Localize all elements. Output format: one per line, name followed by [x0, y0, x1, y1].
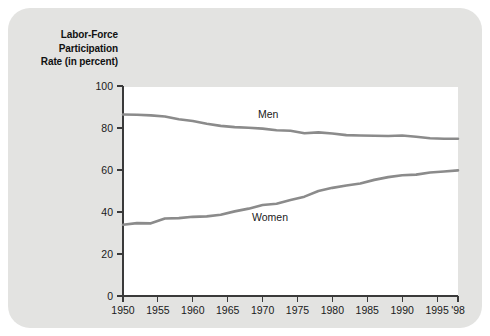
y-tick-group: 020406080100 [95, 80, 123, 302]
y-tick-label-60: 60 [101, 164, 113, 176]
x-tick-label-1980: 1980 [321, 304, 345, 316]
y-tick-label-20: 20 [101, 248, 113, 260]
series-annotation-men: Men [258, 108, 279, 120]
x-tick-group: 1950195519601965197019751980198519901995… [111, 296, 465, 316]
x-tick-label-1995: 1995 [425, 304, 449, 316]
x-tick-label-1990: 1990 [390, 304, 414, 316]
chart-screenshot: Labor-Force Participation Rate (in perce… [0, 0, 490, 336]
x-tick-label-1975: 1975 [286, 304, 310, 316]
y-tick-label-80: 80 [101, 122, 113, 134]
x-tick-label-98: '98 [451, 304, 465, 316]
x-tick-label-1950: 1950 [111, 304, 135, 316]
y-tick-label-0: 0 [107, 290, 113, 302]
x-tick-label-1965: 1965 [216, 304, 240, 316]
x-tick-label-1960: 1960 [181, 304, 205, 316]
chart-svg: 020406080100 195019551960196519701975198… [0, 0, 490, 336]
series-line-men [123, 115, 458, 139]
x-tick-label-1955: 1955 [146, 304, 170, 316]
series-line-women [123, 170, 458, 224]
series-annotation-women: Women [252, 211, 288, 223]
series-group [123, 115, 458, 225]
x-tick-label-1985: 1985 [356, 304, 380, 316]
y-tick-label-40: 40 [101, 206, 113, 218]
y-tick-label-100: 100 [95, 80, 113, 92]
x-tick-label-1970: 1970 [251, 304, 275, 316]
